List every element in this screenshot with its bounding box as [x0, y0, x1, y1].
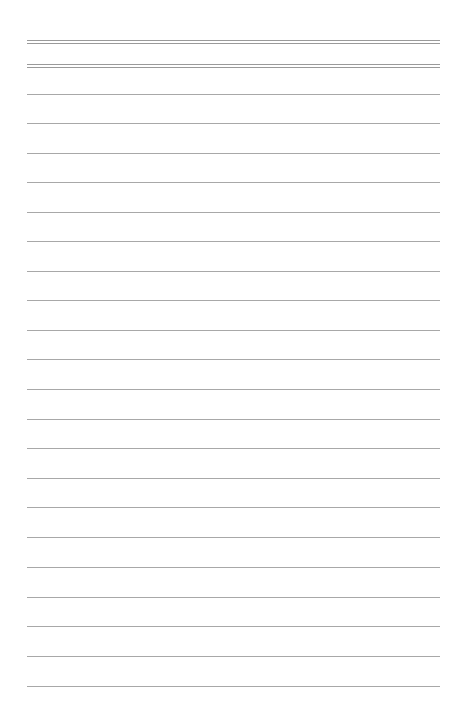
ruled-line: [27, 330, 440, 331]
ruled-line: [27, 182, 440, 183]
header-double-rule: [27, 40, 440, 44]
ruled-line: [27, 123, 440, 124]
ruled-line: [27, 656, 440, 657]
ruled-line: [27, 507, 440, 508]
ruled-paper-page: [0, 0, 460, 716]
ruled-line: [27, 478, 440, 479]
ruled-line: [27, 153, 440, 154]
ruled-line: [27, 241, 440, 242]
ruled-line: [27, 419, 440, 420]
ruled-line: [27, 94, 440, 95]
ruled-line: [27, 597, 440, 598]
ruled-line: [27, 537, 440, 538]
ruled-line: [27, 359, 440, 360]
header-double-rule: [27, 64, 440, 68]
ruled-line: [27, 626, 440, 627]
ruled-line: [27, 567, 440, 568]
ruled-line: [27, 686, 440, 687]
ruled-line: [27, 448, 440, 449]
ruled-line: [27, 271, 440, 272]
ruled-line: [27, 389, 440, 390]
ruled-line: [27, 212, 440, 213]
ruled-line: [27, 300, 440, 301]
